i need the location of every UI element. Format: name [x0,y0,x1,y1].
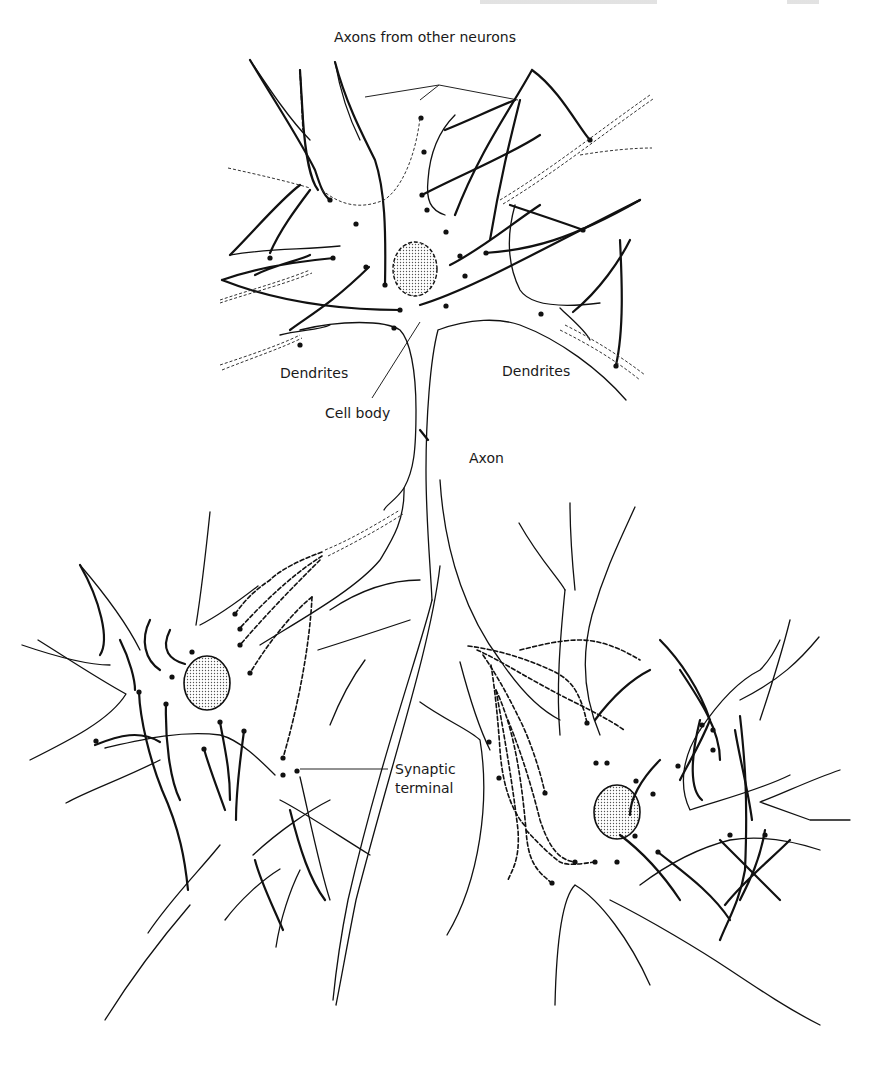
main-axon [260,480,560,1005]
textbook-page: Axons from other neurons Dendrites Dendr… [0,0,874,1083]
label-cell-body: Cell body [325,406,390,421]
label-dendrites-right: Dendrites [502,364,570,379]
lower-left-neuron [22,510,420,1020]
cell-body-leader [372,322,420,398]
synaptic-terminals-upper [267,115,618,368]
nucleus-upper [393,242,437,296]
nucleus-lower-left [184,656,230,710]
upper-neuron [220,60,653,600]
label-synaptic-terminal-line1: Synaptic [395,762,456,777]
label-axon: Axon [469,451,504,466]
neuron-diagram [0,0,874,1083]
label-axons-from-other-neurons: Axons from other neurons [334,30,516,45]
label-synaptic-terminal-line2: terminal [395,781,453,796]
nucleus-lower-right [594,785,640,839]
label-dendrites-left: Dendrites [280,366,348,381]
axons-label-leaders [365,85,518,100]
lower-right-neuron [420,503,850,1025]
